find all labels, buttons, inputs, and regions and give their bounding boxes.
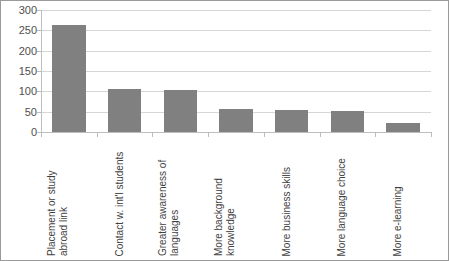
y-axis-tick-label: 300 xyxy=(19,5,37,16)
x-axis-category-label: More business skills xyxy=(280,144,292,256)
x-axis-category-label: Greater awareness of languages xyxy=(157,144,180,256)
x-axis-label-slot: Placement or study abroad link xyxy=(41,138,97,256)
y-axis-tick-label: 150 xyxy=(19,66,37,77)
x-axis-category-label: Contact w. int'l students xyxy=(113,144,125,256)
x-axis-category-labels: Placement or study abroad linkContact w.… xyxy=(41,138,431,256)
bar[interactable] xyxy=(331,111,364,132)
x-axis-tick-mark xyxy=(41,132,42,137)
bar[interactable] xyxy=(108,89,141,132)
y-axis-tick-labels: 050100150200250300 xyxy=(5,10,37,134)
x-axis-tick-mark xyxy=(152,132,153,137)
chart-figure: 050100150200250300 Placement or study ab… xyxy=(0,0,449,261)
x-axis-label-slot: More e-learning xyxy=(375,138,431,256)
bar[interactable] xyxy=(219,109,252,132)
y-axis-tick-label: 200 xyxy=(19,45,37,56)
x-axis-label-slot: Greater awareness of languages xyxy=(152,138,208,256)
bar-slot xyxy=(208,10,264,132)
bar[interactable] xyxy=(386,123,419,132)
y-axis-tick-label: 50 xyxy=(25,106,37,117)
bar-slot xyxy=(97,10,153,132)
bar[interactable] xyxy=(164,90,197,132)
plot-area xyxy=(41,10,431,132)
x-axis-label-slot: Contact w. int'l students xyxy=(97,138,153,256)
x-axis-category-label: Placement or study abroad link xyxy=(46,144,69,256)
x-axis-tick-mark xyxy=(208,132,209,137)
x-axis-tick-mark xyxy=(375,132,376,137)
bar-slot xyxy=(320,10,376,132)
x-axis-label-slot: More language choice xyxy=(320,138,376,256)
y-axis-tick-label: 100 xyxy=(19,86,37,97)
x-axis-tick-mark xyxy=(431,132,432,137)
bar-slot xyxy=(264,10,320,132)
bar-slot xyxy=(375,10,431,132)
x-axis-tick-mark xyxy=(264,132,265,137)
x-axis-tick-mark xyxy=(97,132,98,137)
x-axis-label-slot: More business skills xyxy=(264,138,320,256)
bar[interactable] xyxy=(275,110,308,132)
bar-series xyxy=(41,10,431,132)
bar[interactable] xyxy=(52,25,85,132)
bar-slot xyxy=(41,10,97,132)
bar-slot xyxy=(152,10,208,132)
x-axis-category-label: More e-learning xyxy=(392,144,404,256)
x-axis-category-label: More background knowledge xyxy=(213,144,236,256)
y-axis-tick-label: 250 xyxy=(19,25,37,36)
x-axis-category-label: More language choice xyxy=(336,144,348,256)
x-axis-label-slot: More background knowledge xyxy=(208,138,264,256)
x-axis-tick-mark xyxy=(320,132,321,137)
x-axis-tick-marks xyxy=(41,132,431,137)
